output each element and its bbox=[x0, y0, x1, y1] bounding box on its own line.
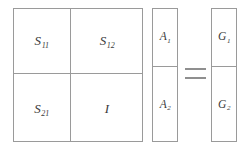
symbol-a2: A2 bbox=[160, 99, 171, 111]
symbol-g1-base: G bbox=[218, 30, 227, 42]
vector-cell-g2: G2 bbox=[211, 67, 237, 142]
vector-cell-g1: G1 bbox=[211, 8, 237, 66]
symbol-a1-base: A bbox=[160, 30, 167, 42]
symbol-s12-subscript: 12 bbox=[107, 41, 115, 50]
matrix-cell-s11: S11 bbox=[13, 8, 70, 73]
symbol-g2-subscript: 2 bbox=[227, 104, 231, 112]
symbol-identity: I bbox=[105, 102, 110, 115]
symbol-s11-base: S bbox=[34, 33, 41, 48]
matrix-cell-s21: S21 bbox=[13, 74, 70, 142]
symbol-g2: G2 bbox=[218, 99, 230, 111]
symbol-identity-base: I bbox=[105, 101, 110, 116]
symbol-s21-base: S bbox=[34, 101, 41, 116]
symbol-a1: A1 bbox=[160, 31, 171, 43]
symbol-g1-subscript: 1 bbox=[227, 37, 231, 45]
symbol-s21-subscript: 21 bbox=[41, 109, 49, 118]
symbol-g1: G1 bbox=[218, 31, 230, 43]
symbol-s12-base: S bbox=[100, 33, 107, 48]
vector-cell-a1: A1 bbox=[152, 8, 178, 66]
equals-sign-top-bar bbox=[185, 68, 206, 70]
symbol-s11: S11 bbox=[34, 34, 48, 47]
equals-sign bbox=[185, 66, 206, 80]
symbol-a2-subscript: 2 bbox=[167, 104, 171, 112]
symbol-g2-base: G bbox=[218, 98, 227, 110]
matrix-cell-s12: S12 bbox=[71, 8, 143, 73]
matrix-equation-figure: S11 S12 S21 I A1 A2 G1 G2 bbox=[0, 0, 245, 153]
matrix-cell-identity: I bbox=[71, 74, 143, 142]
symbol-a2-base: A bbox=[160, 98, 167, 110]
symbol-s11-subscript: 11 bbox=[42, 41, 49, 50]
symbol-s21: S21 bbox=[34, 102, 49, 115]
symbol-a1-subscript: 1 bbox=[167, 37, 171, 45]
symbol-s12: S12 bbox=[100, 34, 115, 47]
vector-cell-a2: A2 bbox=[152, 67, 178, 142]
equals-sign-bottom-bar bbox=[185, 77, 206, 79]
